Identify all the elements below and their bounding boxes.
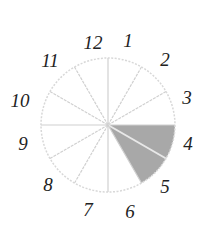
shaded-sector-3-to-5 [108,125,175,183]
spoke-line [50,92,108,126]
clock-face-diagram: 121234567891011 [0,0,211,234]
hour-numeral: 12 [84,32,104,53]
spoke-line [75,67,109,125]
hour-numeral: 2 [160,49,170,70]
hour-numeral: 5 [160,176,170,197]
hour-numeral: 8 [43,174,53,195]
hour-numeral: 9 [18,133,28,154]
spoke-line [108,92,166,126]
spoke-line [75,125,109,183]
hour-numeral: 6 [125,201,135,222]
spoke-line [50,125,108,159]
spoke-line [108,67,142,125]
shaded-sector [108,125,175,183]
hour-numeral: 4 [183,133,193,154]
hour-numeral: 10 [11,90,31,111]
hour-numeral: 7 [83,199,94,220]
hour-numeral: 11 [41,50,59,71]
hour-numeral: 1 [123,30,133,51]
hour-numeral: 3 [181,87,192,108]
